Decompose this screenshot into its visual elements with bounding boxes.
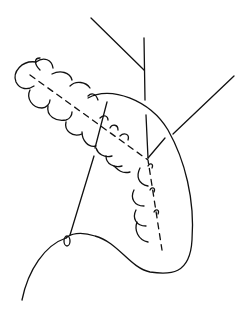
instrument-lines <box>91 18 234 158</box>
illustration <box>0 0 250 319</box>
line-drawing <box>0 0 250 319</box>
stitch-chain <box>15 58 158 242</box>
organ-outline <box>22 93 193 300</box>
